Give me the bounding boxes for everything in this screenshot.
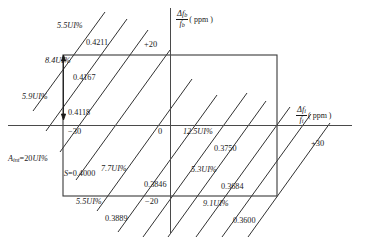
y-axis-unit: ( ppm ) [188, 15, 213, 24]
y-axis-denominator: fb [176, 20, 188, 29]
line-label-value-7: 0.3684 [221, 183, 244, 191]
y-axis-numerator: Δfb [176, 10, 188, 20]
line-label-ui-4: 7.7UI% [101, 165, 127, 173]
line-label-value-3: 0.4118 [68, 109, 90, 117]
line-label-value-5: 0.3889 [105, 215, 128, 223]
origin-label: 0 [158, 128, 162, 136]
line-label-ui-8: 9.1UI% [203, 200, 229, 208]
line-label-ui-3: 5.9UI% [22, 93, 48, 101]
jitter-tolerance-figure: Δfb fb ( ppm ) Δfi fi ( ppm ) +20 −20 −3… [0, 0, 367, 242]
line-label-value-1: 0.4211 [86, 39, 108, 47]
line-label-value-4: 0.3846 [144, 181, 167, 189]
x-tick-minus30: −30 [68, 128, 81, 136]
y-axis-label: Δfb fb ( ppm ) [176, 10, 213, 29]
line-label-value-6: 0.3750 [214, 145, 237, 153]
x-tick-plus30: +30 [311, 140, 324, 148]
y-tick-plus20: +20 [144, 41, 157, 49]
line-label-ui-7: 5.3UI% [191, 166, 217, 174]
x-axis-fraction: Δfi fi [296, 106, 307, 125]
amplitude-annotation: Aint=20UI% [8, 155, 48, 163]
line-label-value-2: 0.4167 [73, 74, 96, 82]
y-axis-fraction: Δfb fb [176, 10, 188, 29]
line-label-ui-6: 12.5UI% [183, 128, 213, 136]
slanted-line-6 [118, 95, 217, 232]
line-label-ui-2: 8.4UI% [45, 57, 71, 65]
slanted-line-5 [97, 79, 192, 211]
line-label-value-8: 0.3600 [233, 217, 256, 225]
line-label-ui-5: 5.5UI% [76, 198, 102, 206]
x-axis-unit: ( ppm ) [307, 111, 332, 120]
slope-annotation: S=0.4000 [64, 170, 95, 178]
x-axis-label: Δfi fi ( ppm ) [296, 106, 332, 125]
x-axis-denominator: fi [296, 116, 307, 125]
line-label-ui-1: 5.5UI% [57, 22, 83, 30]
y-tick-minus20: −20 [145, 198, 158, 206]
